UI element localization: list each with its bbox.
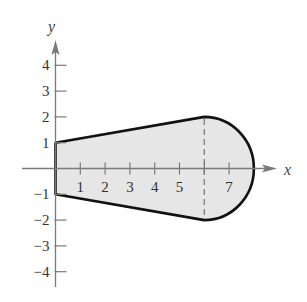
x-tick-label: 3 — [126, 179, 134, 195]
y-tick-label: 3 — [42, 83, 50, 99]
y-tick-label: 4 — [42, 57, 50, 73]
y-tick-label: −3 — [34, 238, 50, 254]
y-tick-label: −2 — [34, 212, 50, 228]
x-tick-label: 1 — [77, 179, 85, 195]
y-tick-label: 2 — [42, 109, 50, 125]
x-tick-label: 5 — [176, 179, 184, 195]
x-axis-label: x — [283, 161, 291, 178]
y-tick-label: −1 — [34, 186, 50, 202]
y-tick-label: 1 — [42, 135, 50, 151]
x-tick-label: 2 — [101, 179, 109, 195]
y-tick-label: −4 — [34, 264, 50, 280]
region-plot: 123457 4321−1−2−3−4 x y — [0, 0, 307, 302]
x-tick-label: 7 — [225, 179, 233, 195]
x-tick-label: 4 — [151, 179, 159, 195]
y-axis-label: y — [46, 18, 56, 36]
